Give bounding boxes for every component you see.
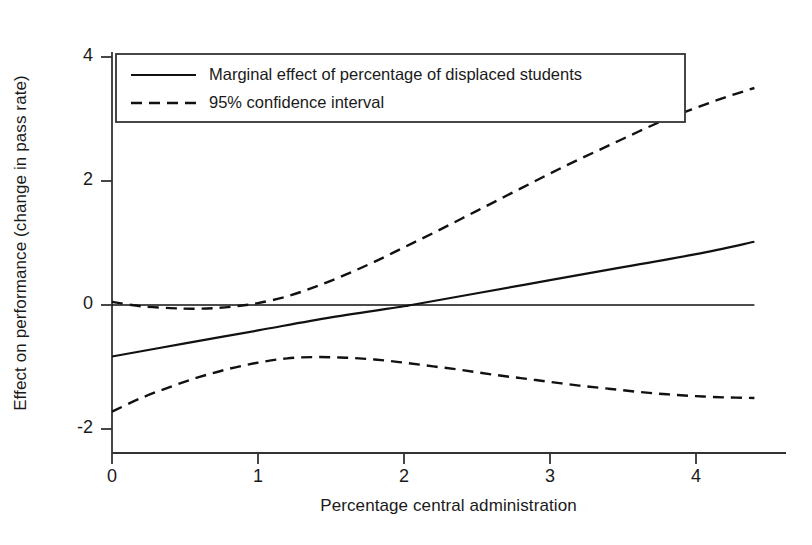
legend-label-marginal-effect: Marginal effect of percentage of displac… [209, 65, 582, 83]
marginal-effect-line [112, 242, 754, 357]
x-tick-label: 0 [92, 466, 132, 487]
y-tick-label: -2 [53, 417, 93, 438]
chart-legend: Marginal effect of percentage of displac… [116, 54, 685, 122]
x-tick-label: 1 [238, 466, 278, 487]
chart-figure: Effect on performance (change in pass ra… [0, 0, 812, 545]
y-axis-ticks [101, 57, 112, 429]
plot-canvas: Marginal effect of percentage of displac… [0, 0, 812, 545]
legend-box [116, 54, 685, 122]
y-tick-label: 0 [53, 293, 93, 314]
legend-label-confidence-interval: 95% confidence interval [209, 93, 384, 111]
x-axis-ticks [112, 453, 696, 464]
y-tick-label: 2 [53, 169, 93, 190]
confidence-interval-lower-line [112, 357, 754, 412]
y-axis-title: Effect on performance (change in pass ra… [8, 8, 34, 478]
x-tick-label: 2 [384, 466, 424, 487]
x-axis-title: Percentage central administration [112, 496, 785, 516]
x-tick-label: 4 [676, 466, 716, 487]
x-tick-label: 3 [530, 466, 570, 487]
y-tick-label: 4 [53, 45, 93, 66]
